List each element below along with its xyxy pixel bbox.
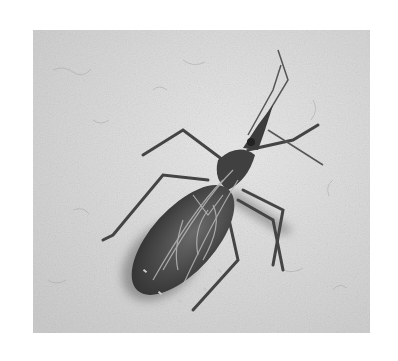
insect-eye: [247, 138, 255, 146]
insect-illustration: [33, 30, 370, 333]
insect-photo: [33, 30, 370, 333]
